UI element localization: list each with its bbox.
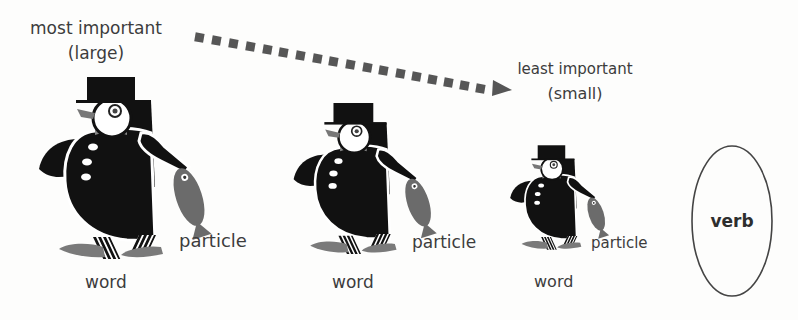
most-important-text: most important [30, 20, 162, 37]
large-text: (large) [30, 45, 162, 62]
most-important-label: most important (large) [30, 20, 162, 62]
particle-label-medium: particle [412, 234, 476, 251]
small-text: (small) [514, 86, 636, 102]
verb-label: verb [692, 211, 772, 231]
word-label-large: word [85, 274, 127, 291]
particle-label-large: particle [179, 232, 247, 250]
word-label-small: word [534, 274, 573, 290]
word-label-medium: word [332, 274, 374, 291]
importance-arrow [194, 32, 512, 96]
least-important-label: least important (small) [514, 62, 636, 102]
particle-label-small: particle [591, 236, 648, 251]
arrowhead-icon [492, 80, 512, 96]
diagram-canvas: most important (large) least important (… [0, 0, 798, 320]
least-important-text: least important [514, 62, 636, 77]
